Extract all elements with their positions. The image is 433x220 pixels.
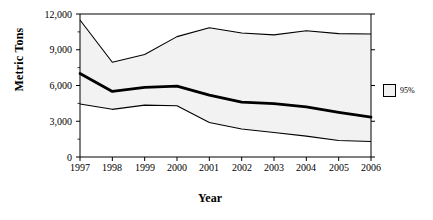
x-axis-title: Year — [150, 191, 270, 206]
x-tick-label-2000: 2000 — [160, 162, 194, 173]
y-tick-label-3000: 3,000 — [28, 116, 72, 127]
x-tick-label-2005: 2005 — [322, 162, 356, 173]
legend-swatch-95 — [383, 84, 396, 97]
x-tick-label-2001: 2001 — [192, 162, 226, 173]
y-tick-label-12000: 12,000 — [28, 9, 72, 20]
legend-label-95: 95% — [400, 86, 415, 95]
x-tick-label-1997: 1997 — [63, 162, 97, 173]
x-tick-label-2006: 2006 — [354, 162, 388, 173]
x-tick-label-1998: 1998 — [95, 162, 129, 173]
x-tick-label-2003: 2003 — [257, 162, 291, 173]
y-axis-title: Metric Tons — [12, 5, 27, 115]
y-tick-label-9000: 9,000 — [28, 44, 72, 55]
x-tick-label-2002: 2002 — [225, 162, 259, 173]
x-tick-label-1999: 1999 — [128, 162, 162, 173]
confidence-band — [80, 20, 371, 142]
chart-figure: Metric Tons Year 12,000 9,000 6,000 3,00… — [0, 0, 433, 220]
y-tick-label-6000: 6,000 — [28, 80, 72, 91]
plot-area — [0, 0, 433, 220]
x-tick-label-2004: 2004 — [289, 162, 323, 173]
